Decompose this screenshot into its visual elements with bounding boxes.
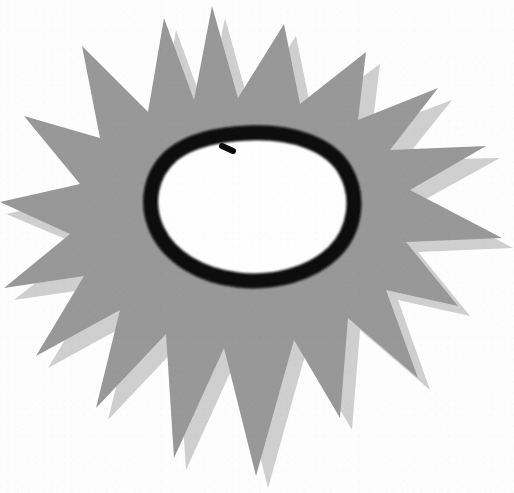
center-ellipse-group (151, 132, 354, 281)
starburst-illustration: Starburst with central ellipse A jagged … (0, 0, 514, 493)
artwork-canvas: Starburst with central ellipse A jagged … (0, 0, 514, 493)
